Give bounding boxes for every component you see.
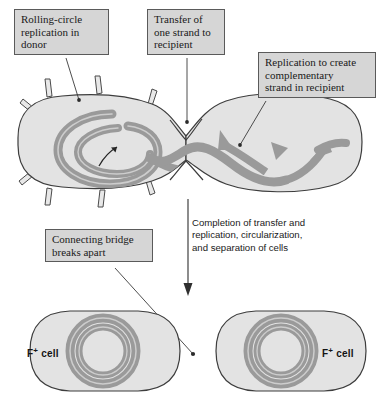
process-step-note: Completion of transfer and replication, …: [192, 217, 372, 254]
leader-dot-replication: [238, 143, 242, 147]
callout-complementary-replication: Replication to create complementary stra…: [258, 52, 376, 98]
leader-dot-rolling-circle: [77, 98, 81, 102]
bottom-right-cell-caption: F+ cell: [322, 348, 354, 359]
caption-suffix: cell: [333, 348, 353, 359]
callout-rolling-circle-replication: Rolling-circle replication in donor: [14, 9, 109, 55]
bottom-left-cell-caption: F+ cell: [27, 348, 59, 359]
pilus-icon: [95, 76, 102, 94]
pilus-icon: [45, 188, 52, 205]
leader-line-rolling-circle: [66, 58, 79, 100]
pilus-icon: [98, 190, 105, 207]
callout-connecting-bridge: Connecting bridge breaks apart: [45, 229, 153, 262]
conjugation-diagram: Rolling-circle replication in donor Tran…: [0, 0, 378, 412]
caption-suffix: cell: [38, 348, 58, 359]
leader-dot-bridge: [191, 352, 195, 356]
pilus-icon: [45, 79, 52, 97]
callout-transfer-of-strand: Transfer of one strand to recipient: [147, 9, 225, 55]
leader-dot-transfer: [185, 120, 189, 124]
